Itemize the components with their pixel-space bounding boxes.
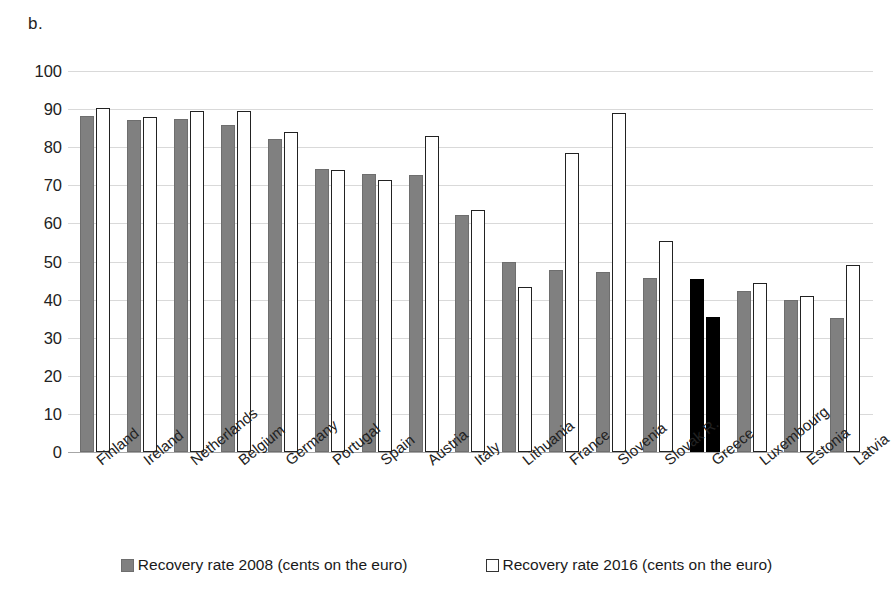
x-axis-category-labels: FinlandIrelandNetherlandsBelgiumGermanyP… xyxy=(68,455,873,555)
grey-square-icon xyxy=(121,559,134,572)
panel-label: b. xyxy=(28,14,43,34)
bar[interactable] xyxy=(455,215,469,452)
legend-item[interactable]: Recovery rate 2016 (cents on the euro) xyxy=(486,556,773,574)
bar-group xyxy=(119,71,166,452)
bar-group xyxy=(72,71,119,452)
bar[interactable] xyxy=(284,132,298,452)
bar[interactable] xyxy=(753,283,767,452)
y-axis-tick-label: 40 xyxy=(16,290,62,309)
bar[interactable] xyxy=(190,111,204,452)
bar[interactable] xyxy=(331,170,345,452)
bar[interactable] xyxy=(502,262,516,452)
legend-label: Recovery rate 2016 (cents on the euro) xyxy=(503,556,773,574)
bar[interactable] xyxy=(268,139,282,452)
bar[interactable] xyxy=(127,120,141,452)
bar-group xyxy=(822,71,869,452)
bar[interactable] xyxy=(425,136,439,452)
bar[interactable] xyxy=(518,287,532,452)
white-square-icon xyxy=(486,559,499,572)
bar[interactable] xyxy=(221,125,235,452)
y-axis-tick-label: 30 xyxy=(16,328,62,347)
bar-group xyxy=(353,71,400,452)
legend-item[interactable]: Recovery rate 2008 (cents on the euro) xyxy=(121,556,408,574)
bar[interactable] xyxy=(565,153,579,452)
bar-group xyxy=(494,71,541,452)
y-axis-tick-label: 70 xyxy=(16,176,62,195)
plot-area xyxy=(68,71,873,452)
bar[interactable] xyxy=(846,265,860,452)
bar[interactable] xyxy=(143,117,157,452)
bar-group xyxy=(306,71,353,452)
bar-group xyxy=(681,71,728,452)
bar[interactable] xyxy=(96,108,110,452)
bar-groups xyxy=(68,71,873,452)
y-axis-tick-label: 60 xyxy=(16,214,62,233)
bar-group xyxy=(213,71,260,452)
bar[interactable] xyxy=(378,180,392,452)
y-axis-tick-label: 90 xyxy=(16,100,62,119)
bar[interactable] xyxy=(596,272,610,452)
bar[interactable] xyxy=(174,119,188,452)
bar[interactable] xyxy=(315,169,329,452)
bar-group xyxy=(541,71,588,452)
bar-group xyxy=(260,71,307,452)
bar-group xyxy=(635,71,682,452)
y-axis-tick-label: 10 xyxy=(16,404,62,423)
y-axis: 1009080706050403020100 xyxy=(8,71,62,452)
bar[interactable] xyxy=(362,174,376,452)
bar[interactable] xyxy=(471,210,485,452)
chart-legend: Recovery rate 2008 (cents on the euro)Re… xyxy=(0,556,893,574)
legend-label: Recovery rate 2008 (cents on the euro) xyxy=(138,556,408,574)
y-axis-tick-label: 0 xyxy=(16,443,62,462)
y-axis-tick-label: 100 xyxy=(16,62,62,81)
y-axis-tick-label: 50 xyxy=(16,252,62,271)
bar-group xyxy=(400,71,447,452)
y-axis-tick-label: 80 xyxy=(16,138,62,157)
bar-group xyxy=(588,71,635,452)
bar-group xyxy=(447,71,494,452)
bar[interactable] xyxy=(409,175,423,452)
chart-figure: b. 1009080706050403020100 FinlandIreland… xyxy=(0,0,893,614)
y-axis-tick-label: 20 xyxy=(16,366,62,385)
bar[interactable] xyxy=(80,116,94,452)
bar-group xyxy=(166,71,213,452)
bar-group xyxy=(775,71,822,452)
bar[interactable] xyxy=(237,111,251,452)
bar[interactable] xyxy=(612,113,626,452)
bar-group xyxy=(728,71,775,452)
